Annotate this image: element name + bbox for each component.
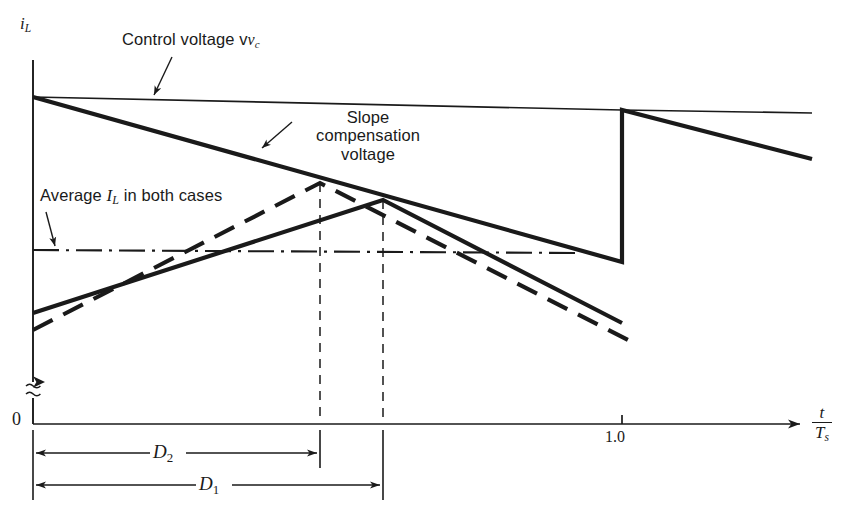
annotation-slope-compensation-line3: voltage [300, 145, 436, 163]
annotation-average-suffix: in both cases [119, 186, 222, 204]
control-voltage-symbol: v [248, 31, 255, 48]
figure-canvas: iL 0 1.0 t Ts Control voltage vvc Slope … [0, 0, 857, 513]
leader-average-current [46, 212, 55, 246]
y-axis-label-sub: L [25, 22, 31, 35]
annotation-control-voltage: Control voltage vvc [122, 30, 260, 50]
duty-label-d2-main: D [153, 441, 167, 462]
average-current-line [33, 250, 580, 253]
origin-label: 0 [12, 409, 21, 429]
waveform-plot [0, 0, 857, 513]
duty-label-d1: D1 [199, 473, 219, 497]
duty-label-d2-sub: 2 [167, 450, 173, 465]
x-axis-label: t Ts [812, 404, 832, 444]
annotation-slope-compensation-line2: compensation [300, 126, 436, 144]
duty-label-d1-main: D [199, 473, 213, 494]
axis-break-icon [26, 384, 40, 388]
annotation-average-prefix: Average [40, 186, 107, 204]
x-axis-label-fraction: t Ts [812, 404, 832, 444]
y-axis-label: iL [20, 14, 31, 36]
control-voltage-symbol-sub: c [255, 38, 260, 50]
annotation-slope-compensation: Slope compensation voltage [300, 108, 436, 163]
x-axis-label-numerator: t [812, 404, 832, 422]
inductor-current-solid-trace [33, 200, 622, 323]
duty-label-d1-sub: 1 [213, 482, 219, 497]
annotation-slope-compensation-line1: Slope [300, 108, 436, 126]
x-axis-label-denominator: Ts [812, 423, 832, 444]
leader-control-voltage [154, 57, 172, 95]
duty-label-d2: D2 [153, 441, 173, 465]
annotation-control-voltage-text: Control voltage v [122, 30, 248, 48]
leader-slope-compensation [262, 122, 292, 148]
axis-break-icon-2 [26, 392, 40, 396]
annotation-average-current: Average IL in both cases [40, 186, 222, 208]
x-tick-label-1p0: 1.0 [605, 428, 625, 446]
